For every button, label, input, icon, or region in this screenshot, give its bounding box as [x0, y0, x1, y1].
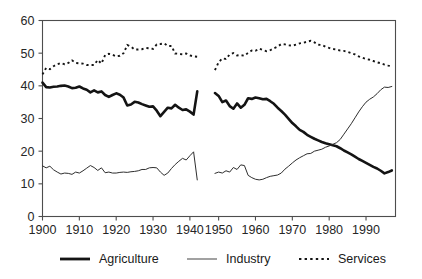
- x-axis-labels: 1900191019201930194019501960197019801990: [29, 223, 380, 237]
- x-tick-label-1900: 1900: [29, 223, 57, 237]
- y-tick-label-40: 40: [21, 79, 35, 93]
- x-tick-label-1950: 1950: [205, 223, 233, 237]
- y-tick-label-20: 20: [21, 145, 35, 159]
- chart-container: 0102030405060 19001910192019301940195019…: [0, 0, 422, 279]
- x-tick-label-1920: 1920: [102, 223, 130, 237]
- x-tick-label-1940: 1940: [176, 223, 204, 237]
- legend-label-industry: Industry: [226, 252, 271, 266]
- chart-background: [0, 0, 422, 279]
- x-tick-label-1910: 1910: [65, 223, 93, 237]
- line-chart: 0102030405060 19001910192019301940195019…: [0, 0, 422, 279]
- x-tick-label-1960: 1960: [242, 223, 270, 237]
- legend-label-services: Services: [338, 252, 386, 266]
- x-tick-label-1970: 1970: [278, 223, 306, 237]
- y-tick-label-60: 60: [21, 14, 35, 28]
- y-tick-label-10: 10: [21, 177, 35, 191]
- x-tick-label-1980: 1980: [315, 223, 343, 237]
- legend-label-agriculture: Agriculture: [99, 252, 159, 266]
- x-tick-label-1990: 1990: [352, 223, 380, 237]
- x-tick-label-1930: 1930: [139, 223, 167, 237]
- y-tick-label-50: 50: [21, 47, 35, 61]
- y-tick-label-30: 30: [21, 112, 35, 126]
